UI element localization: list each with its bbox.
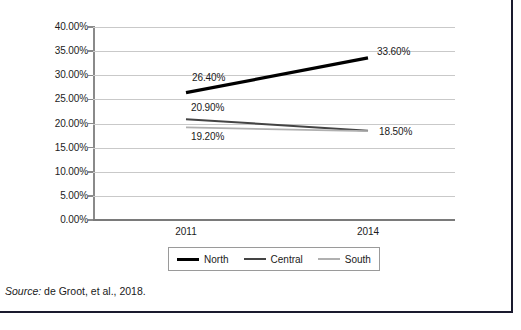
legend-line-north-icon (177, 258, 199, 261)
figure-border-right (511, 0, 513, 313)
line-chart: 0.00%5.00%10.00%15.00%20.00%25.00%30.00%… (0, 0, 500, 285)
data-label-north-2014: 33.60% (377, 46, 410, 57)
data-label-north-2011: 26.40% (192, 72, 225, 83)
chart-legend[interactable]: North Central South (168, 247, 380, 271)
figure-border-bottom (0, 311, 512, 313)
series-layer (0, 0, 500, 285)
legend-item-central[interactable]: Central (244, 254, 303, 265)
data-label-south-2011: 19.20% (191, 131, 224, 142)
legend-label-central: Central (271, 254, 303, 265)
legend-item-north[interactable]: North (177, 254, 228, 265)
legend-line-central-icon (244, 258, 266, 260)
data-label-central-2014: 18.50% (379, 126, 412, 137)
legend-label-north: North (204, 254, 228, 265)
data-label-central-2011: 20.90% (191, 102, 224, 113)
legend-item-south[interactable]: South (318, 254, 371, 265)
source-citation: de Groot, et al., 2018. (41, 285, 145, 297)
legend-label-south: South (345, 254, 371, 265)
source-label: Source: (5, 285, 41, 297)
source-caption: Source: de Groot, et al., 2018. (5, 285, 146, 297)
legend-line-south-icon (318, 258, 340, 260)
